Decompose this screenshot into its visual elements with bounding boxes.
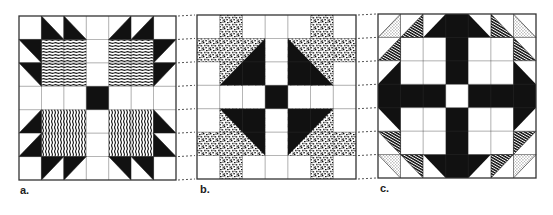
- block-caption-a: a.: [20, 184, 29, 196]
- block-caption-c: c.: [380, 182, 389, 194]
- quilt-block-c: [378, 14, 536, 178]
- block-caption-b: b.: [200, 183, 210, 195]
- quilt-block-b: [197, 15, 356, 179]
- patch-white: [446, 84, 469, 107]
- patch-solid: [86, 86, 108, 109]
- quilt-blocks: [19, 14, 536, 180]
- patch-solid: [265, 85, 288, 108]
- quilt-block-a: [19, 16, 176, 180]
- quilt-block-figure: [0, 0, 553, 215]
